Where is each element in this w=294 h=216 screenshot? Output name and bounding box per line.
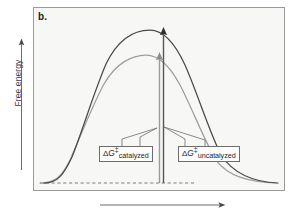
callout-catalyzed-subscript: catalyzed [119,151,149,160]
callout-catalyzed: ΔG‡catalyzed [99,146,153,162]
callout-uncatalyzed: ΔG‡uncatalyzed [178,146,240,162]
callout-uncatalyzed-subscript: uncatalyzed [198,151,236,160]
free-energy-diagram-figure: Free energy b. ΔG‡catalyzed ΔG‡uncatalyz… [0,0,294,216]
figure-canvas [0,0,294,216]
panel-letter: b. [38,11,47,22]
